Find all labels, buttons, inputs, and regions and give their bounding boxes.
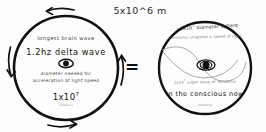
scale-label: 5x10^6 m xyxy=(113,6,166,16)
brain-wave-unit-label: (meters) xyxy=(59,104,73,107)
influence-rest: super wave of influence xyxy=(186,80,236,85)
diameter-mantissa: 1x10 xyxy=(53,92,76,102)
brain-wave-diameter-value: 1x107 xyxy=(53,93,80,102)
brain-wave-top-label: longest brain wave xyxy=(37,36,95,41)
eye-icon-left xyxy=(59,59,73,67)
eye-icon-right xyxy=(197,60,215,70)
conscious-now-label: in the conscious now xyxy=(166,91,244,98)
influence-mantissa: 1x10 xyxy=(174,81,184,85)
diagram-canvas: 5x10^6 m = longest brain wave 1.2hz delt… xyxy=(0,0,266,132)
rotation-arrow-bottom xyxy=(48,121,77,128)
sphere-arc-mantissa: ~1x10 xyxy=(176,25,193,31)
brain-wave-sub-label-2: acceleration at light speed xyxy=(33,79,100,83)
brain-wave-main-label: 1.2hz delta wave xyxy=(26,48,106,56)
brain-wave-sub-label-1: diameter needed for xyxy=(41,72,92,76)
sphere-unit-label: (meters) xyxy=(198,104,213,107)
diameter-exponent: 7 xyxy=(75,91,79,97)
rotation-arrow-top xyxy=(46,8,74,15)
equals-operator: = xyxy=(125,59,139,76)
